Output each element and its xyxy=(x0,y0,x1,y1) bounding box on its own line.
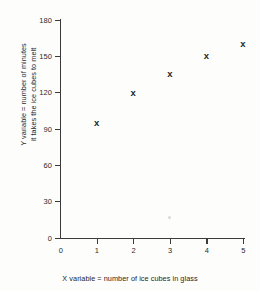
x-axis-tick-label: 1 xyxy=(90,246,104,255)
x-axis-title: X variable = number of ice cubes in glas… xyxy=(0,274,260,283)
x-axis-tick xyxy=(170,239,171,244)
y-axis-tick xyxy=(55,56,60,57)
x-axis-tick xyxy=(133,239,134,244)
x-axis-tick-label: 0 xyxy=(54,246,68,255)
x-axis-tick xyxy=(97,239,98,244)
scan-artifact-speck xyxy=(168,216,171,219)
data-point-marker: x xyxy=(128,88,138,98)
x-axis-tick-label: 3 xyxy=(163,246,177,255)
y-axis-title: Y variable = number of minutes it takes … xyxy=(19,15,38,175)
data-point-marker: x xyxy=(92,118,102,128)
x-axis-tick-label: 2 xyxy=(127,246,141,255)
data-point-marker: x xyxy=(238,39,248,49)
y-axis-tick xyxy=(55,20,60,21)
y-axis-line xyxy=(60,19,61,239)
x-axis-tick xyxy=(206,239,207,244)
y-axis-title-line-2: it takes the ice cubes to melt xyxy=(28,15,38,175)
x-axis-line xyxy=(60,238,245,239)
scatter-plot-figure: 180 150 120 90 60 30 0 0 1 2 3 4 5 x x x… xyxy=(0,0,260,291)
y-axis-tick-label: 0 xyxy=(30,234,52,243)
x-axis-tick-label: 5 xyxy=(236,246,250,255)
x-axis-tick-label: 4 xyxy=(200,246,214,255)
y-axis-tick xyxy=(55,92,60,93)
y-axis-tick-label: 30 xyxy=(30,197,52,206)
data-point-marker: x xyxy=(165,69,175,79)
x-axis-tick xyxy=(243,239,244,244)
y-axis-tick xyxy=(55,238,60,239)
y-axis-title-line-1: Y variable = number of minutes xyxy=(19,15,29,175)
y-axis-tick xyxy=(55,129,60,130)
y-axis-tick xyxy=(55,201,60,202)
data-point-marker: x xyxy=(201,51,211,61)
y-axis-tick xyxy=(55,165,60,166)
